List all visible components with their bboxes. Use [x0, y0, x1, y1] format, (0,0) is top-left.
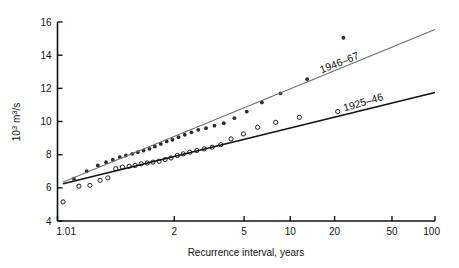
- data-point-filled: [213, 124, 217, 128]
- x-tick-label: 5: [241, 226, 247, 237]
- y-tick-label: 8: [46, 149, 52, 160]
- x-tick-label: 100: [423, 226, 440, 237]
- data-point-filled: [342, 36, 346, 40]
- data-point-filled: [171, 138, 175, 142]
- y-tick-label: 14: [40, 50, 52, 61]
- data-point-filled: [245, 110, 249, 114]
- x-tick-label: 10: [285, 226, 297, 237]
- x-tick-label: 50: [386, 226, 398, 237]
- recurrence-interval-scatter-chart: 46810121416 1.0125102050100 1946–671925–…: [0, 0, 459, 268]
- data-point-filled: [204, 126, 208, 130]
- data-point-filled: [183, 133, 187, 137]
- data-point-filled: [232, 116, 236, 120]
- x-tick-label: 20: [329, 226, 341, 237]
- data-point-filled: [222, 121, 226, 125]
- x-tick-label: 1.01: [57, 226, 77, 237]
- chart-container: 46810121416 1.0125102050100 1946–671925–…: [0, 0, 459, 268]
- y-tick-label: 16: [40, 17, 52, 28]
- data-point-filled: [305, 77, 309, 81]
- x-axis-title: Recurrence interval, years: [188, 247, 305, 258]
- x-tick-label: 2: [171, 226, 177, 237]
- data-point-filled: [190, 130, 194, 134]
- y-tick-label: 4: [46, 216, 52, 227]
- y-tick-label: 6: [46, 182, 52, 193]
- data-point-filled: [177, 135, 181, 139]
- data-point-filled: [196, 128, 200, 132]
- y-tick-label: 10: [40, 116, 52, 127]
- y-axis-title: 103 m3/s: [10, 103, 23, 141]
- y-tick-label: 12: [40, 83, 52, 94]
